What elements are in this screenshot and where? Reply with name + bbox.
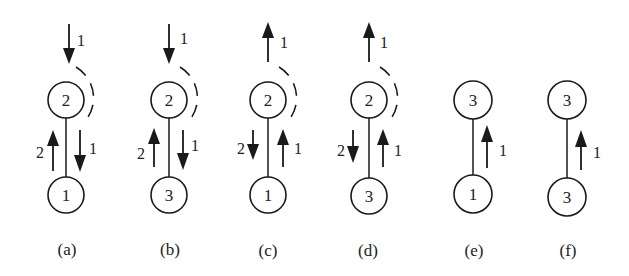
left-arrow-label: 2 [36,144,44,161]
left-arrow-up [47,130,59,171]
panel-c: 1 2 1 2 1 (c) [237,22,302,260]
bottom-node-label: 1 [62,186,71,205]
bottom-node-label: 1 [469,185,478,204]
right-arrow-label: 1 [394,142,402,159]
diagram-canvas: 1 2 1 2 1 (a) 1 2 3 [0,0,629,276]
top-node-label: 2 [62,91,71,110]
incoming-arrow-label: 1 [77,32,85,49]
right-arrow-up [575,130,587,170]
incoming-arrow-down [63,24,75,64]
panel-a: 1 2 1 2 1 (a) [36,24,97,259]
right-arrow-up [481,125,493,168]
panel-label: (c) [259,241,278,260]
top-node-label: 3 [469,91,478,110]
incoming-arrow-label: 1 [180,30,188,47]
panel-label: (d) [358,241,378,260]
panel-label: (b) [160,240,180,259]
left-arrow-down [347,130,359,163]
right-arrow-up [377,129,389,167]
right-arrow-up [277,129,289,167]
panel-b: 1 2 3 2 1 (b) [137,24,199,259]
incoming-arrow-label: 1 [280,34,288,51]
left-arrow-down [247,130,259,160]
panel-f: 3 3 1 (f) [548,81,601,260]
right-arrow-label: 1 [89,140,97,157]
panel-d: 1 2 3 2 1 (d) [337,22,402,260]
bottom-node-label: 3 [165,186,174,205]
panel-label: (e) [465,241,484,260]
top-node-label: 2 [264,91,273,110]
left-arrow-label: 2 [337,142,345,159]
top-node-label: 2 [165,91,174,110]
right-arrow-label: 1 [294,140,302,157]
incoming-arrow-up [363,22,375,62]
right-arrow-label: 1 [593,144,601,161]
bottom-node-label: 1 [264,186,273,205]
right-arrow-down [177,130,189,170]
left-arrow-up [148,128,160,167]
top-node-label: 3 [563,91,572,110]
incoming-arrow-up [262,22,274,62]
panel-label: (a) [58,240,77,259]
bottom-node-label: 3 [563,188,572,207]
incoming-arrow-label: 1 [380,34,388,51]
left-arrow-label: 2 [137,145,145,162]
bottom-node-label: 3 [365,187,374,206]
panel-e: 3 1 1 (e) [454,81,507,260]
incoming-arrow-down [163,24,175,64]
top-node-label: 2 [365,91,374,110]
right-arrow-label: 1 [191,137,199,154]
left-arrow-label: 2 [237,140,245,157]
panel-label: (f) [560,241,577,260]
right-arrow-label: 1 [499,142,507,159]
right-arrow-down [74,130,86,172]
